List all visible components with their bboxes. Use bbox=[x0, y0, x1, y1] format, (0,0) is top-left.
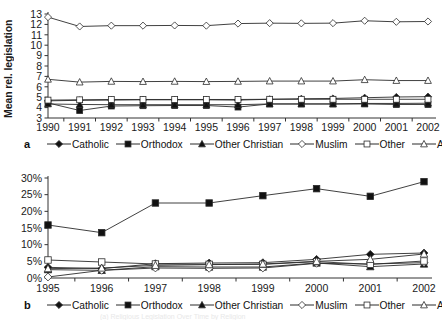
chart-panel-a: Mean rel. legislation 345678910111213199… bbox=[0, 0, 442, 158]
legend-item-orthodox[interactable]: Orthodox bbox=[115, 138, 183, 150]
open-square-icon bbox=[354, 138, 380, 150]
legend-item-catholic[interactable]: Catholic bbox=[46, 299, 109, 311]
legend-item-other[interactable]: Other bbox=[354, 138, 405, 150]
svg-text:1996: 1996 bbox=[226, 121, 250, 133]
legend-item-muslim[interactable]: Muslim bbox=[289, 299, 347, 311]
svg-text:2000: 2000 bbox=[305, 282, 329, 294]
panel-a-plot: 3456789101112131990199119921993199419951… bbox=[0, 0, 442, 158]
legend-label: Orthodox bbox=[141, 300, 183, 311]
svg-text:1996: 1996 bbox=[90, 282, 114, 294]
svg-text:1999: 1999 bbox=[251, 282, 275, 294]
svg-text:1998: 1998 bbox=[290, 121, 314, 133]
legend-label: Muslim bbox=[315, 300, 347, 311]
filled-triangle-icon bbox=[189, 299, 215, 311]
filled-triangle-icon bbox=[189, 138, 215, 150]
figure-container: Mean rel. legislation 345678910111213199… bbox=[0, 0, 442, 322]
legend-item-orthodox[interactable]: Orthodox bbox=[115, 299, 183, 311]
svg-text:1994: 1994 bbox=[163, 121, 187, 133]
open-triangle-icon bbox=[411, 299, 437, 311]
figure-caption-faint: (a) Religious Legislation Over Time by R… bbox=[100, 313, 400, 320]
svg-text:10: 10 bbox=[30, 39, 42, 51]
legend-label: Average bbox=[437, 300, 442, 311]
open-square-icon bbox=[354, 299, 380, 311]
legend-item-average[interactable]: Average bbox=[411, 299, 442, 311]
svg-text:11: 11 bbox=[31, 29, 42, 41]
svg-text:9: 9 bbox=[36, 49, 42, 61]
panel-a-letter: a bbox=[24, 138, 30, 150]
svg-text:13: 13 bbox=[30, 8, 42, 20]
filled-square-icon bbox=[115, 138, 141, 150]
legend-item-other-christian[interactable]: Other Christian bbox=[189, 299, 284, 311]
filled-square-icon bbox=[115, 299, 141, 311]
panel-b-plot: 0%5%10%15%20%25%30%199519961997199819992… bbox=[0, 158, 442, 322]
open-diamond-icon bbox=[289, 138, 315, 150]
open-triangle-icon bbox=[411, 138, 437, 150]
legend-item-other[interactable]: Other bbox=[354, 299, 405, 311]
legend-label: Catholic bbox=[72, 139, 109, 150]
legend-item-other-christian[interactable]: Other Christian bbox=[189, 138, 284, 150]
svg-text:1991: 1991 bbox=[68, 121, 92, 133]
svg-text:20%: 20% bbox=[21, 205, 42, 217]
svg-text:1999: 1999 bbox=[321, 121, 345, 133]
filled-diamond-icon bbox=[46, 299, 72, 311]
legend-label: Other bbox=[380, 139, 405, 150]
svg-text:2000: 2000 bbox=[353, 121, 377, 133]
panel-b-legend: CatholicOrthodoxOther ChristianMuslimOth… bbox=[46, 299, 442, 311]
svg-text:2002: 2002 bbox=[412, 282, 436, 294]
legend-label: Muslim bbox=[315, 139, 347, 150]
legend-item-muslim[interactable]: Muslim bbox=[289, 138, 347, 150]
legend-item-catholic[interactable]: Catholic bbox=[46, 138, 109, 150]
legend-label: Average bbox=[437, 139, 442, 150]
svg-text:4: 4 bbox=[36, 101, 42, 113]
svg-text:5%: 5% bbox=[27, 255, 42, 267]
svg-text:30%: 30% bbox=[21, 172, 42, 184]
legend-label: Other Christian bbox=[215, 139, 284, 150]
svg-text:15%: 15% bbox=[21, 222, 42, 234]
svg-text:1995: 1995 bbox=[195, 121, 219, 133]
svg-text:25%: 25% bbox=[21, 188, 42, 200]
svg-text:1990: 1990 bbox=[36, 121, 60, 133]
svg-text:1997: 1997 bbox=[258, 121, 282, 133]
open-diamond-icon bbox=[289, 299, 315, 311]
svg-text:5: 5 bbox=[36, 91, 42, 103]
svg-text:8: 8 bbox=[36, 60, 42, 72]
legend-label: Orthodox bbox=[141, 139, 183, 150]
svg-text:6: 6 bbox=[36, 81, 42, 93]
legend-label: Catholic bbox=[72, 300, 109, 311]
legend-label: Other bbox=[380, 300, 405, 311]
svg-text:1995: 1995 bbox=[36, 282, 60, 294]
chart-panel-b: Δ Rel. legislation 0%5%10%15%20%25%30%19… bbox=[0, 158, 442, 322]
svg-text:1998: 1998 bbox=[197, 282, 221, 294]
svg-text:2002: 2002 bbox=[416, 121, 440, 133]
legend-item-average[interactable]: Average bbox=[411, 138, 442, 150]
panel-b-letter: b bbox=[24, 299, 31, 311]
svg-text:1993: 1993 bbox=[131, 121, 155, 133]
filled-diamond-icon bbox=[46, 138, 72, 150]
panel-a-legend: CatholicOrthodoxOther ChristianMuslimOth… bbox=[46, 138, 442, 150]
svg-text:10%: 10% bbox=[21, 238, 42, 250]
svg-text:7: 7 bbox=[36, 70, 42, 82]
legend-label: Other Christian bbox=[215, 300, 284, 311]
svg-text:1992: 1992 bbox=[100, 121, 124, 133]
svg-text:1997: 1997 bbox=[144, 282, 168, 294]
svg-text:2001: 2001 bbox=[385, 121, 409, 133]
svg-text:2001: 2001 bbox=[359, 282, 383, 294]
svg-text:12: 12 bbox=[30, 18, 42, 30]
